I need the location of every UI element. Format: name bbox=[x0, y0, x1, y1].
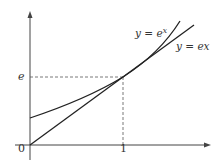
x-axis-arrow-icon bbox=[204, 143, 211, 148]
exponential-label: y = ex bbox=[134, 26, 168, 39]
tangent-line-curve bbox=[30, 25, 194, 145]
y-tick-label: e bbox=[18, 70, 25, 83]
tangent-line-label: y = ex bbox=[175, 40, 210, 52]
y-axis-arrow-icon bbox=[28, 11, 33, 18]
exponential-tangent-diagram: 0 1 e y = ex y = ex bbox=[0, 0, 222, 166]
exponential-label-base: y = e bbox=[134, 27, 163, 39]
origin-label: 0 bbox=[18, 142, 25, 155]
exponential-label-superscript: x bbox=[163, 26, 168, 35]
x-tick-label: 1 bbox=[120, 142, 127, 155]
